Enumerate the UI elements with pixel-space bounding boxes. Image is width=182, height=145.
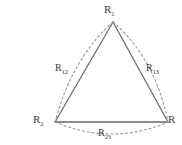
edge-label-r12: R12 bbox=[55, 63, 68, 76]
vertex-label-r1: R1 bbox=[104, 4, 115, 18]
edge-label-r13-subscript: 13 bbox=[153, 68, 159, 75]
edge-label-r12-subscript: 12 bbox=[62, 68, 68, 75]
vertex-label-r3: R bbox=[168, 114, 175, 128]
vertex-label-r3-base: R bbox=[168, 113, 175, 125]
edge-label-r13: R13 bbox=[146, 63, 159, 76]
dashed-arc-bottom bbox=[55, 122, 168, 134]
vertex-label-r2-subscript: 2 bbox=[40, 120, 43, 127]
edge-label-r13-base: R bbox=[146, 62, 153, 73]
figure-canvas: R1 R2 R R12 R13 R23 bbox=[0, 0, 182, 145]
triangle-edge-right bbox=[113, 22, 168, 122]
vertex-label-r1-subscript: 1 bbox=[111, 10, 114, 17]
edge-label-r23: R23 bbox=[98, 128, 111, 141]
edge-label-r23-subscript: 23 bbox=[105, 133, 111, 140]
edge-label-r12-base: R bbox=[55, 62, 62, 73]
vertex-label-r2: R2 bbox=[33, 114, 44, 128]
edge-label-r23-base: R bbox=[98, 127, 105, 138]
